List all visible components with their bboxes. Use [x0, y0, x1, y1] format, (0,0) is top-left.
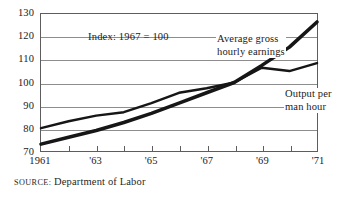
annotation-output-line1: Output per: [285, 88, 332, 99]
y-tick-label-130: 130: [8, 8, 34, 19]
y-tick-label-110: 110: [8, 54, 34, 65]
y-tick-label-80: 80: [8, 124, 34, 135]
index-note: Index: 1967 = 100: [88, 31, 169, 43]
x-tick-label-1969: '69: [256, 155, 269, 166]
series-annotation-output: Output per man hour: [284, 88, 333, 113]
source-value: Department of Labor: [54, 176, 145, 187]
source-note: source: Department of Labor: [14, 176, 146, 189]
x-tick-label-1963: '63: [89, 155, 102, 166]
x-tick-label-1971: '71: [312, 155, 325, 166]
y-tick-label-120: 120: [8, 31, 34, 42]
series-annotation-earnings: Average gross hourly earnings: [216, 33, 286, 58]
y-tick-label-100: 100: [8, 78, 34, 89]
figure: 130120110100908070 1961'63'65'67'69'71 I…: [0, 0, 342, 210]
y-tick-label-90: 90: [8, 101, 34, 112]
x-tick-label-1965: '65: [145, 155, 158, 166]
annotation-earnings-line2: hourly earnings: [217, 46, 285, 59]
x-tick-label-1967: '67: [200, 155, 213, 166]
annotation-output-line2: man hour: [285, 101, 332, 114]
x-tick-label-1961: 1961: [29, 155, 50, 166]
annotation-earnings-line1: Average gross: [217, 33, 279, 44]
plot-area: Index: 1967 = 100 Average gross hourly e…: [40, 13, 318, 152]
source-label: source:: [14, 178, 51, 187]
series-line-output-per-man-hour: [41, 63, 317, 128]
